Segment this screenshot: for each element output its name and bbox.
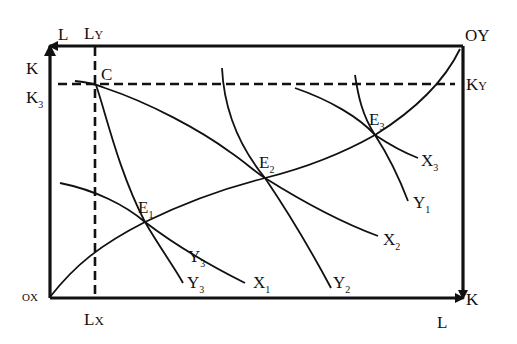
y1-label: Y1 [413, 193, 430, 215]
svg-text:LX: LX [84, 310, 104, 329]
svg-text:K: K [26, 59, 39, 78]
isoquant-y3 [96, 85, 183, 283]
y3-upper-label: Y3 [188, 247, 205, 269]
svg-text:L: L [437, 313, 447, 332]
e2-label: E2 [259, 153, 274, 175]
edgeworth-box-diagram: L K K L OX OY LY LX K3 KY C E1 E2 E3 X1 … [0, 0, 517, 344]
svg-text:KY: KY [466, 75, 487, 94]
x2-label: X2 [383, 230, 400, 252]
e3-label: E3 [369, 110, 384, 132]
y3-lower-label: Y3 [187, 273, 204, 295]
contract-curve [50, 49, 460, 297]
y2-label: Y2 [333, 273, 350, 295]
isoquant-y2 [222, 68, 331, 288]
x1-label: X1 [253, 273, 270, 295]
isoquant-x3 [295, 88, 418, 158]
isoquant-y1 [355, 75, 408, 201]
y-isoquants [96, 68, 408, 288]
svg-text:LY: LY [84, 24, 103, 43]
svg-text:K3: K3 [26, 88, 43, 110]
x3-label: X3 [421, 151, 438, 173]
svg-text:L: L [58, 25, 68, 44]
e1-label: E1 [138, 198, 153, 220]
svg-text:OY: OY [465, 26, 490, 45]
x-isoquants [60, 81, 418, 283]
point-c-label: C [101, 65, 112, 84]
svg-text:OX: OX [22, 291, 38, 303]
svg-text:K: K [466, 290, 479, 309]
equilibrium-labels: E1 E2 E3 [138, 110, 384, 220]
